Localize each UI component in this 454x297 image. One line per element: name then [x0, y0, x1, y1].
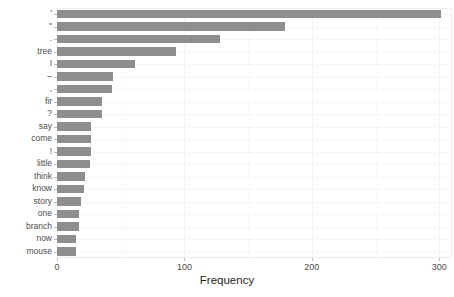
y-axis-tick-label: one: [0, 208, 52, 220]
y-axis-tick-label: ": [0, 21, 52, 33]
bar-chart: '".treeI–,fir?saycome!littlethinkknowsto…: [0, 0, 454, 297]
y-axis-tick-label: .: [0, 33, 52, 45]
bar-row: [57, 8, 452, 20]
bar: [57, 122, 91, 131]
bar: [57, 222, 79, 231]
y-axis-tick-label: tree: [0, 46, 52, 58]
bar: [57, 247, 76, 256]
bar-row: [57, 33, 452, 45]
bar: [57, 147, 91, 156]
bar: [57, 135, 91, 144]
bar-row: [57, 183, 452, 195]
x-axis-tick-label: 200: [304, 262, 319, 272]
y-axis-tick-label: little: [0, 158, 52, 170]
y-axis-labels: '".treeI–,fir?saycome!littlethinkknowsto…: [0, 8, 52, 258]
bar-row: [57, 158, 452, 170]
bar-row: [57, 233, 452, 245]
x-axis-tick-mark: [57, 258, 58, 261]
bar: [57, 160, 90, 169]
y-axis-tick-label: story: [0, 196, 52, 208]
x-axis-tick-label: 100: [177, 262, 192, 272]
bar-row: [57, 21, 452, 33]
y-axis-tick-label: say: [0, 121, 52, 133]
bar: [57, 97, 102, 106]
bar: [57, 60, 135, 69]
bar-row: [57, 121, 452, 133]
bar-row: [57, 58, 452, 70]
bar: [57, 35, 220, 44]
bar-row: [57, 208, 452, 220]
x-axis-tick-label: 300: [432, 262, 447, 272]
bar: [57, 235, 76, 244]
bar-row: [57, 146, 452, 158]
y-axis-tick-label: branch: [0, 221, 52, 233]
bars-layer: [57, 8, 452, 258]
y-axis-tick-label: now: [0, 233, 52, 245]
bar-row: [57, 133, 452, 145]
y-axis-tick-label: I: [0, 58, 52, 70]
plot-area: [57, 8, 452, 258]
y-axis-tick-label: fir: [0, 96, 52, 108]
y-axis-tick-label: mouse: [0, 246, 52, 258]
bar: [57, 22, 285, 31]
y-axis-tick-label: !: [0, 146, 52, 158]
x-axis-title: Frequency: [0, 274, 454, 286]
bar-row: [57, 246, 452, 258]
x-axis-tick-mark: [439, 258, 440, 261]
bar: [57, 10, 441, 19]
y-axis-tick-label: –: [0, 71, 52, 83]
y-axis-tick-label: ': [0, 8, 52, 20]
bar: [57, 185, 84, 194]
y-axis-tick-label: know: [0, 183, 52, 195]
y-axis-tick-label: think: [0, 171, 52, 183]
bar-row: [57, 108, 452, 120]
bar-row: [57, 221, 452, 233]
bar: [57, 172, 85, 181]
y-axis-tick-label: ?: [0, 108, 52, 120]
bar: [57, 210, 79, 219]
bar-row: [57, 196, 452, 208]
bar-row: [57, 83, 452, 95]
bar: [57, 197, 81, 206]
y-axis-tick-label: come: [0, 133, 52, 145]
bar: [57, 85, 112, 94]
bar: [57, 72, 113, 81]
x-axis-tick-label: 0: [54, 262, 59, 272]
bar-row: [57, 46, 452, 58]
bar: [57, 47, 176, 56]
bar-row: [57, 71, 452, 83]
y-axis-tick-label: ,: [0, 83, 52, 95]
bar: [57, 110, 102, 119]
bar-row: [57, 96, 452, 108]
x-axis-tick-mark: [184, 258, 185, 261]
bar-row: [57, 171, 452, 183]
x-axis-tick-mark: [312, 258, 313, 261]
